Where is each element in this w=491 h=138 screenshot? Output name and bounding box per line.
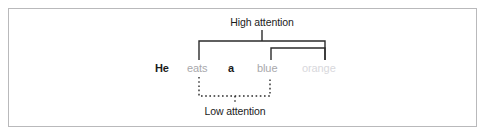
token-he: He bbox=[155, 61, 169, 75]
token-eats: eats bbox=[187, 61, 207, 75]
sentence-token-row: He eats a blue orange bbox=[0, 61, 491, 75]
token-a: a bbox=[228, 61, 234, 75]
high-attention-inner-bracket bbox=[271, 48, 325, 60]
token-orange: orange bbox=[302, 61, 336, 75]
high-attention-outer-bracket bbox=[199, 41, 325, 60]
high-attention-label: High attention bbox=[230, 17, 293, 28]
low-attention-bracket bbox=[199, 77, 270, 96]
low-attention-label: Low attention bbox=[204, 106, 265, 117]
attention-span-figure: High attention He eats a blue orange Low… bbox=[0, 0, 491, 138]
token-blue: blue bbox=[257, 61, 277, 75]
